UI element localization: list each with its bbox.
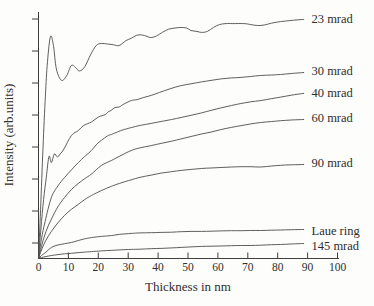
series-label-40-mrad: 40 mrad <box>312 86 354 100</box>
x-tick-label: 70 <box>242 261 254 273</box>
curve-90-mrad <box>39 165 304 259</box>
series-label-90-mrad: 90 mrad <box>312 156 354 170</box>
curve-145-mrad <box>39 244 304 259</box>
x-axis-title: Thickness in nm <box>145 279 231 294</box>
x-tick-label: 80 <box>272 261 284 273</box>
series-label-30-mrad: 30 mrad <box>312 64 354 78</box>
curve-23-mrad <box>39 19 304 258</box>
y-axis-title: Intensity (arb.units) <box>1 84 16 187</box>
x-tick-label: 30 <box>122 261 134 273</box>
x-tick-label: 40 <box>152 261 164 273</box>
series-label-145-mrad: 145 mrad <box>312 239 360 253</box>
series-label-23-mrad: 23 mrad <box>312 12 354 26</box>
curve-40-mrad <box>39 93 304 258</box>
x-tick-label: 10 <box>63 261 75 273</box>
series-label-60-mrad: 60 mrad <box>312 111 354 125</box>
x-tick-label: 20 <box>93 261 105 273</box>
x-tick-label: 100 <box>329 261 347 273</box>
figure-intensity-vs-thickness: 010203040506070809010023 mrad30 mrad40 m… <box>0 0 374 306</box>
x-tick-label: 60 <box>212 261 224 273</box>
x-tick-label: 0 <box>36 261 42 273</box>
x-tick-label: 50 <box>182 261 194 273</box>
curve-60-mrad <box>39 120 304 259</box>
curve-laue-ring <box>39 230 304 259</box>
x-tick-label: 90 <box>302 261 314 273</box>
line-chart: 010203040506070809010023 mrad30 mrad40 m… <box>0 0 374 306</box>
chart-generated-layer: 010203040506070809010023 mrad30 mrad40 m… <box>32 12 360 273</box>
series-label-laue-ring: Laue ring <box>312 224 361 238</box>
